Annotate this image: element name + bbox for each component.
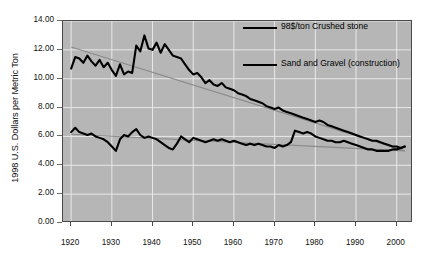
y-tick-mark — [57, 78, 62, 79]
x-tick-mark — [396, 222, 397, 226]
legend-item-sand-and-gravel: Sand and Gravel (construction) — [243, 59, 418, 83]
y-tick-mark — [57, 135, 62, 136]
x-tick-label: 1990 — [335, 238, 375, 247]
y-tick-mark — [57, 107, 62, 108]
x-tick-label: 1920 — [50, 238, 90, 247]
x-tick-mark — [152, 222, 153, 226]
x-tick-mark — [233, 222, 234, 226]
x-tick-mark — [192, 222, 193, 226]
x-tick-label: 1940 — [132, 238, 172, 247]
legend-label-sand-and-gravel: Sand and Gravel (construction) — [281, 58, 413, 69]
figure-caption — [2, 259, 422, 267]
x-tick-mark — [274, 222, 275, 226]
x-tick-mark — [70, 222, 71, 226]
x-tick-label: 1970 — [254, 238, 294, 247]
x-tick-label: 1950 — [172, 238, 212, 247]
x-tick-label: 1930 — [91, 238, 131, 247]
x-tick-mark — [111, 222, 112, 226]
y-tick-mark — [57, 164, 62, 165]
y-tick-mark — [57, 49, 62, 50]
x-tick-label: 1960 — [213, 238, 253, 247]
legend-line-swatch-sand-and-gravel — [243, 64, 277, 66]
y-tick-mark — [57, 20, 62, 21]
chart-legend: 98$/ton Crushed stone Sand and Gravel (c… — [243, 22, 418, 96]
x-tick-mark — [355, 222, 356, 226]
x-tick-label: 2000 — [376, 238, 416, 247]
y-tick-mark — [57, 193, 62, 194]
legend-line-swatch-crushed-stone — [243, 27, 277, 29]
x-tick-label: 1980 — [294, 238, 334, 247]
y-tick-mark — [57, 222, 62, 223]
legend-item-crushed-stone: 98$/ton Crushed stone — [243, 22, 418, 46]
x-tick-mark — [314, 222, 315, 226]
chart-container: 1998 U.S. Dollars per Metric Ton 0.002.0… — [0, 0, 425, 267]
legend-label-crushed-stone: 98$/ton Crushed stone — [281, 21, 413, 32]
